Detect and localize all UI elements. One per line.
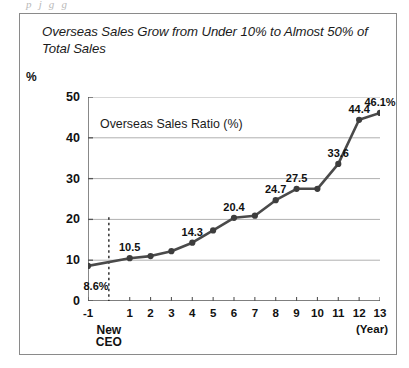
new-ceo-annotation: New CEO: [96, 324, 122, 348]
data-point-label: 10.5: [119, 241, 140, 253]
series-label: Overseas Sales Ratio (%): [100, 117, 243, 131]
x-tick-label: 5: [210, 307, 216, 319]
data-point-label: 24.7: [265, 183, 286, 195]
x-tick-label: 9: [293, 307, 299, 319]
x-tick-label: 12: [353, 307, 366, 319]
x-tick-label: 7: [252, 307, 258, 319]
y-tick-label: 10: [52, 253, 80, 267]
x-tick-label: 3: [168, 307, 174, 319]
x-tick-label: 11: [332, 307, 344, 319]
y-tick-label: 50: [52, 90, 80, 104]
figure-frame: Overseas Sales Grow from Under 10% to Al…: [19, 13, 397, 355]
y-tick-label: 0: [52, 294, 80, 308]
x-tick-label: 2: [147, 307, 153, 319]
x-tick-label: 6: [231, 307, 237, 319]
page-bleed-text: p j g g: [0, 0, 409, 13]
y-tick-label: 40: [52, 131, 80, 145]
x-axis-unit-label: (Year): [356, 323, 388, 335]
data-point-label: 20.4: [223, 201, 244, 213]
data-point-label: 14.3: [182, 226, 203, 238]
data-point-label: 27.5: [286, 172, 307, 184]
data-point-label: 46.1%: [364, 96, 395, 108]
x-tick-label: -1: [83, 307, 93, 319]
y-tick-marks: [88, 97, 93, 301]
x-tick-label: 4: [189, 307, 195, 319]
new-ceo-line2: CEO: [96, 336, 122, 348]
plot-area: Overseas Sales Ratio (%) 8.6%10.514.320.…: [88, 97, 380, 301]
chart-title: Overseas Sales Grow from Under 10% to Al…: [42, 23, 372, 57]
x-tick-label: 10: [311, 307, 324, 319]
x-tick-label: 13: [374, 307, 387, 319]
x-tick-label: 8: [273, 307, 279, 319]
data-point-label: 33.6: [328, 147, 349, 159]
data-point-label: 8.6%: [83, 280, 108, 292]
x-tick-label: 1: [127, 307, 133, 319]
y-axis-unit-label: %: [26, 70, 37, 84]
y-tick-label: 30: [52, 172, 80, 186]
y-tick-label: 20: [52, 212, 80, 226]
